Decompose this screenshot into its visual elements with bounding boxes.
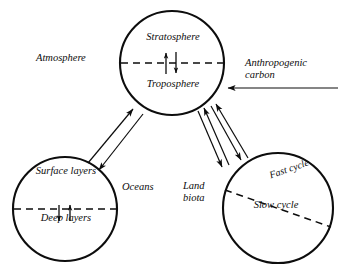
label-surface-layers: Surface layers — [35, 165, 97, 177]
label-troposphere: Troposphere — [130, 78, 216, 90]
label-atmosphere: Atmosphere — [36, 52, 86, 64]
label-slow-cycle: Slow cycle — [248, 199, 304, 211]
carbon-cycle-diagram: Atmosphere Stratosphere Troposphere Anth… — [0, 0, 338, 271]
label-land-biota: Land biota — [183, 180, 223, 204]
label-anthropogenic-carbon: Anthropogenic carbon — [245, 57, 337, 81]
flow-land-biota-to-atmosphere-inner — [216, 104, 248, 158]
label-oceans: Oceans — [122, 181, 154, 193]
label-stratosphere: Stratosphere — [130, 31, 216, 43]
label-deep-layers: Deep layers — [35, 212, 97, 224]
